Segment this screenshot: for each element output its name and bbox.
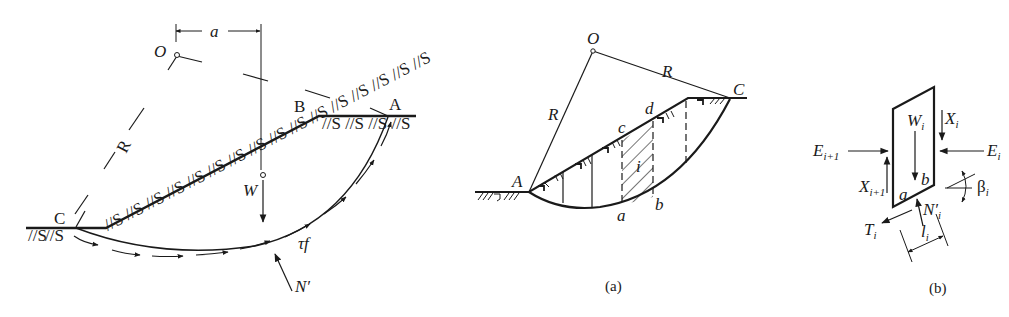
- label-T-i: Ti: [864, 220, 877, 241]
- centroid-point: [261, 173, 266, 178]
- label-W: W: [243, 181, 259, 200]
- radius-line-dashed: [75, 56, 388, 214]
- svg-text://S //S //S //S: //S //S //S //S: [322, 114, 410, 133]
- slip-circle-arc: [76, 117, 388, 250]
- label-d: d: [645, 99, 654, 118]
- label-l-i: li: [921, 222, 929, 243]
- figure-left: //S //S //S //S //S //S //S //S //S //S …: [26, 22, 434, 296]
- ground-hatch-marks: //S //S //S //S //S //S //S //S //S //S …: [28, 48, 434, 245]
- label-R: R: [113, 136, 135, 156]
- label-N-prime: N′: [294, 277, 310, 296]
- figure-a: O R R A C c d a b i (a): [475, 29, 747, 295]
- svg-text://S: //S: [45, 226, 64, 245]
- label-c: c: [618, 118, 626, 137]
- label-W-i: Wi: [907, 111, 924, 132]
- label-A-a: A: [511, 172, 523, 191]
- label-b-small: b: [655, 195, 664, 214]
- label-X-i1: Xi+1: [858, 177, 885, 198]
- shear-T-i-arrow: [882, 210, 912, 223]
- radius-O-A: [529, 51, 593, 192]
- label-a-b: a: [899, 185, 908, 204]
- label-a-small: a: [617, 206, 626, 225]
- center-point-O: [175, 53, 180, 58]
- caption-a: (a): [605, 278, 622, 295]
- label-E-i: Ei: [986, 141, 1000, 162]
- label-A: A: [389, 95, 402, 114]
- angle-beta: [945, 171, 975, 202]
- label-X-i: Xi: [944, 109, 958, 130]
- label-slice-i: i: [636, 157, 641, 176]
- slope-stability-figure: //S //S //S //S //S //S //S //S //S //S …: [0, 0, 1009, 317]
- label-C-a: C: [733, 80, 745, 99]
- label-R-left: R: [547, 105, 559, 124]
- label-O-a: O: [587, 29, 599, 48]
- label-tau-f: τf: [298, 234, 311, 253]
- figure-b: Wi Xi Ei+1 Ei Xi+1 a b N′i Ti li βi (b): [812, 87, 1000, 297]
- label-O: O: [154, 42, 166, 61]
- normal-force-arrow: [275, 254, 292, 291]
- center-point-O-a: [591, 49, 595, 53]
- label-a: a: [210, 22, 219, 41]
- label-E-i1: Ei+1: [812, 141, 839, 162]
- label-C: C: [54, 209, 65, 228]
- label-R-right: R: [661, 62, 673, 81]
- label-N-i: N′i: [922, 200, 941, 221]
- label-b-b: b: [921, 170, 930, 189]
- label-B: B: [294, 97, 305, 116]
- label-beta-i: βi: [977, 177, 989, 198]
- caption-b: (b): [929, 280, 947, 297]
